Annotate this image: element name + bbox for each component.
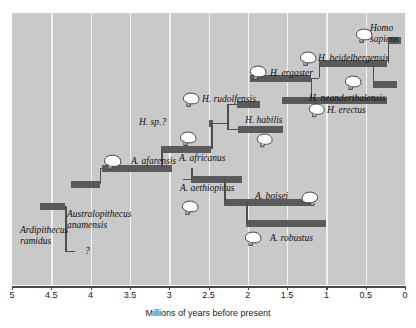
taxon-label: H. neanderthalensis [309, 93, 386, 104]
skull-icon [307, 103, 327, 119]
axis-tick-label: 1 [324, 290, 329, 300]
gridline [130, 13, 131, 285]
axis-tick-label: 3.5 [124, 290, 137, 300]
taxon-label-line: sapiens [370, 34, 399, 45]
taxon-label: A. africanus [179, 153, 225, 164]
taxon-label: H. erectus [327, 105, 366, 116]
lineage-connector [227, 129, 237, 130]
lineage-connector [227, 104, 228, 129]
taxon-label: A. robustus [270, 233, 313, 244]
gridline [91, 13, 92, 285]
lineage-connector [282, 100, 311, 101]
taxon-label: A. aethiopicus [180, 183, 234, 194]
lineage-connector [211, 123, 212, 149]
taxon-label: Ardipithecusramidus [20, 225, 68, 246]
axis-tick-label: 4 [88, 290, 93, 300]
taxon-label: H. rudolfensis [202, 94, 256, 105]
taxon-label: Homosapiens [370, 23, 399, 44]
skull-icon [181, 92, 202, 109]
axis-tick-label: 5 [9, 290, 14, 300]
lineage-connector [183, 179, 191, 180]
taxon-label-line: ramidus [20, 236, 68, 247]
lineage-connector [65, 251, 75, 252]
skull-icon [343, 75, 364, 92]
taxon-label: Australopithecusanamensis [67, 209, 131, 230]
skull-icon [102, 154, 124, 172]
skull-icon [243, 231, 264, 248]
taxon-label: H. ergaster [270, 68, 313, 79]
taxon-label: H. sp.? [139, 117, 166, 128]
taxon-label: H. habilis [245, 115, 282, 126]
taxon-label: ? [85, 246, 90, 257]
taxon-label-line: Ardipithecus [20, 225, 68, 236]
axis-tick-label: 0 [402, 290, 407, 300]
taxon-label-line: Australopithecus [67, 209, 131, 220]
skull-icon [248, 65, 269, 82]
range-bar [246, 220, 326, 227]
skull-icon [298, 51, 319, 68]
axis-tick-label: 3 [167, 290, 172, 300]
range-bar [40, 203, 66, 210]
range-bar [191, 176, 242, 183]
axis-tick-label: 2 [245, 290, 250, 300]
lineage-connector [213, 123, 227, 124]
x-axis-title: Millions of years before present [0, 308, 416, 318]
range-bar [373, 81, 397, 88]
taxon-label-line: anamensis [67, 220, 131, 231]
axis-tick-label: 2.5 [202, 290, 215, 300]
range-bar [238, 126, 284, 133]
skull-icon [299, 191, 320, 208]
plot-area: HomosapiensH. heidelbergensisH. neandert… [12, 13, 405, 285]
axis-tick-label: 0.5 [359, 290, 372, 300]
range-bar [71, 181, 100, 188]
axis-tick-label: 4.5 [45, 290, 58, 300]
taxon-label: H. heidelbergensis [318, 53, 389, 64]
gridline [287, 13, 288, 285]
axis-tick-label: 1.5 [281, 290, 294, 300]
hominid-evolution-chart: HomosapiensH. heidelbergensisH. neandert… [0, 0, 416, 328]
taxon-label: A. afarensis [131, 156, 176, 167]
taxon-label-line: Homo [370, 23, 399, 34]
skull-icon [180, 200, 201, 217]
lineage-connector [373, 63, 374, 84]
taxon-label: A. boisei [255, 191, 288, 202]
lineage-connector [191, 168, 192, 179]
skull-icon [255, 133, 275, 149]
skull-icon [178, 131, 199, 148]
lineage-connector [246, 202, 247, 223]
